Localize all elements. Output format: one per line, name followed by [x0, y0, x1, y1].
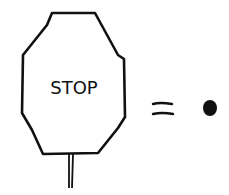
stop-sign: STOP	[22, 13, 125, 188]
sign-pole	[69, 154, 73, 188]
stop-equals-dot-diagram: STOP	[0, 0, 229, 195]
equals-sign	[153, 103, 173, 114]
stop-text: STOP	[50, 77, 98, 98]
period-dot	[203, 100, 217, 116]
